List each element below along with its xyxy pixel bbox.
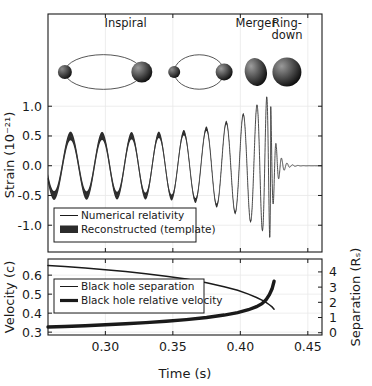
ytick-label-strain: 0.0 (22, 158, 42, 173)
ytick-label-strain: 1.0 (22, 99, 42, 114)
ytick-label-separation: 3 (329, 280, 337, 295)
ytick-label-separation: 4 (329, 264, 337, 279)
merger-merged-blob (242, 56, 269, 88)
ytick-label-separation: 0 (329, 325, 337, 340)
ytick-label-velocity: 0.6 (22, 268, 42, 283)
inspiral-stage-2-black-hole-small (168, 66, 180, 78)
separation-axis-title: Separation (Rₛ) (348, 248, 363, 347)
ytick-label-separation: 2 (329, 295, 337, 310)
ytick-label-strain: 0.5 (22, 128, 42, 143)
inspiral-stage-1-black-hole-small (58, 65, 72, 79)
velocity-legend-label-0: Black hole separation (81, 280, 194, 292)
xtick-label: 0.40 (226, 339, 254, 354)
xtick-label: 0.30 (91, 339, 119, 354)
velocity-legend-label-1: Black hole relative velocity (81, 294, 223, 306)
ytick-label-velocity: 0.4 (22, 306, 42, 321)
strain-legend-label-0: Numerical relativity (81, 209, 184, 221)
annotation-ringdown-line2: down (271, 28, 302, 42)
figure-canvas: 0.300.350.400.451.00.50.0-0.5-1.00.60.50… (0, 0, 372, 386)
annotation-merger: Merger (236, 16, 277, 30)
inspiral-stage-1-black-hole-large (131, 62, 152, 83)
velocity-axis-title: Velocity (c) (2, 261, 17, 333)
gravitational-wave-figure: 0.300.350.400.451.00.50.0-0.5-1.00.60.50… (0, 0, 372, 386)
xtick-label: 0.45 (294, 339, 322, 354)
annotation-inspiral: Inspiral (105, 16, 147, 30)
ringdown-final-black-hole (272, 58, 301, 87)
strain-legend-swatch-1 (60, 226, 78, 234)
ytick-label-strain: -0.5 (18, 188, 42, 203)
ytick-label-separation: 1 (329, 310, 337, 325)
inspiral-stage-2-black-hole-large (216, 64, 233, 81)
ytick-label-velocity: 0.5 (22, 287, 42, 302)
strain-axis-title: Strain (10⁻²¹) (2, 112, 17, 199)
time-axis-title: Time (s) (158, 366, 212, 381)
ytick-label-strain: -1.0 (18, 218, 42, 233)
inspiral-stage-1-orbit-path (65, 55, 142, 90)
xtick-label: 0.35 (159, 339, 187, 354)
strain-legend-label-1: Reconstructed (template) (81, 223, 216, 235)
ytick-label-velocity: 0.3 (22, 325, 42, 340)
